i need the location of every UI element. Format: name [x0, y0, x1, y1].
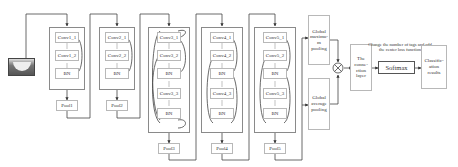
conv-box: Conv2_1	[105, 32, 129, 43]
conv-box: Conv4_1	[210, 32, 234, 43]
bn-box: BN	[157, 68, 181, 79]
bn-box: BN	[157, 108, 181, 119]
pool-box: Pool3	[158, 143, 180, 154]
bn-box: BN	[210, 108, 234, 119]
conv-box: Conv4_3	[210, 88, 234, 99]
classification-results-box: Classific-ation results	[421, 45, 447, 89]
pool-box: Pool2	[106, 100, 128, 111]
bn-box: BN	[105, 68, 129, 79]
global-max-pooling-box: Global maximu-m pooling	[308, 15, 330, 65]
pool-box: Pool4	[211, 143, 233, 154]
conv-box: Conv5_1	[263, 32, 287, 43]
bn-box: BN	[263, 108, 287, 119]
bn-box: BN	[55, 68, 79, 79]
conv-box: Conv3_2	[157, 50, 181, 61]
conv-box: Conv4_2	[210, 50, 234, 61]
conv-box: Conv1_1	[55, 32, 79, 43]
conv-box: Conv2_2	[105, 50, 129, 61]
input-image	[8, 58, 35, 76]
conv-box: Conv1_2	[55, 50, 79, 61]
pool-box: Pool1	[56, 100, 78, 111]
bn-box: BN	[210, 68, 234, 79]
pool-box: Pool5	[264, 143, 286, 154]
conv-box: Conv5_2	[263, 50, 287, 61]
conv-box: Conv3_3	[157, 88, 181, 99]
global-average-pooling-box: Global average pooling	[308, 78, 330, 130]
conv-box: Conv5_3	[263, 88, 287, 99]
softmax-box: Softmax	[378, 61, 415, 74]
conv-box: Conv3_1	[157, 32, 181, 43]
bn-box: BN	[263, 68, 287, 79]
